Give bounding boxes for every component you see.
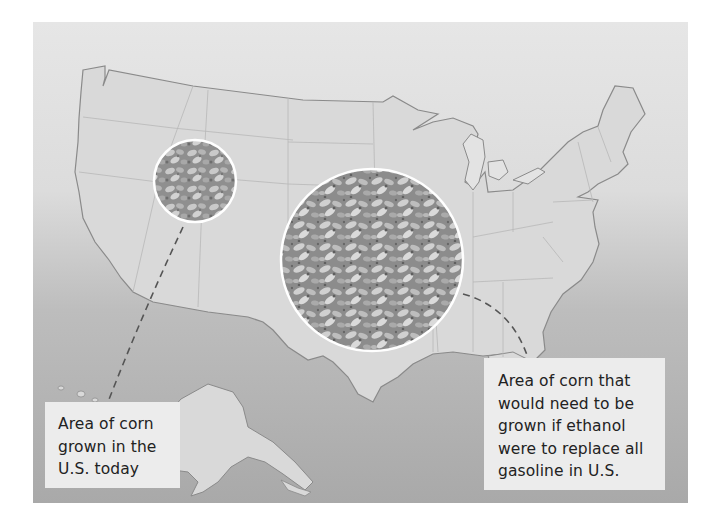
label-line: would need to be: [498, 393, 665, 416]
label-line: grown in the: [58, 436, 180, 459]
label-line: were to replace all: [498, 438, 665, 461]
label-line: grown if ethanol: [498, 415, 665, 438]
figure-stage: Area of corn grown in the U.S. today Are…: [0, 0, 718, 527]
label-line: U.S. today: [58, 458, 180, 481]
label-line: Area of corn that: [498, 370, 665, 393]
required-corn-label: Area of corn that would need to be grown…: [484, 358, 665, 490]
alaska-inset: [165, 384, 313, 496]
current-corn-area-circle: [154, 140, 236, 222]
map-frame: Area of corn grown in the U.S. today Are…: [33, 22, 688, 503]
label-line: gasoline in U.S.: [498, 460, 665, 483]
label-line: Area of corn: [58, 413, 180, 436]
current-corn-label: Area of corn grown in the U.S. today: [45, 402, 180, 488]
required-corn-area-circle: [281, 169, 463, 351]
